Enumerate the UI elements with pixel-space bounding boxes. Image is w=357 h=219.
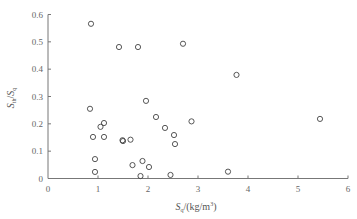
data-point-circle-icon <box>180 41 185 46</box>
data-point-circle-icon <box>143 98 148 103</box>
data-point-circle-icon <box>189 119 194 124</box>
data-point-circle-icon <box>162 125 167 130</box>
y-tick-label: 0.5 <box>32 37 44 47</box>
y-tick-label: 0.6 <box>32 10 44 20</box>
x-tick-label: 6 <box>346 184 351 194</box>
data-point-circle-icon <box>146 164 151 169</box>
data-point-circle-icon <box>92 156 97 161</box>
data-point-circle-icon <box>130 163 135 168</box>
scatter-chart: 00.10.20.30.40.50.6 0123456 Sq/(kg/m3) S… <box>0 0 357 219</box>
y-tick-label: 0.1 <box>32 146 43 156</box>
y-tick-label: 0.2 <box>32 119 43 129</box>
y-axis-title: Sth/Sq <box>5 88 17 108</box>
x-tick-label: 0 <box>46 184 51 194</box>
data-point-circle-icon <box>87 106 92 111</box>
data-point-circle-icon <box>171 132 176 137</box>
data-points <box>87 21 322 178</box>
data-point-circle-icon <box>317 116 322 121</box>
y-tick-label: 0.4 <box>32 64 44 74</box>
data-point-circle-icon <box>140 158 145 163</box>
y-tick-label: 0.3 <box>32 92 44 102</box>
y-tick-label: 0 <box>39 174 44 184</box>
data-point-circle-icon <box>172 141 177 146</box>
data-point-circle-icon <box>153 114 158 119</box>
data-point-circle-icon <box>135 44 140 49</box>
data-point-circle-icon <box>168 172 173 177</box>
x-tick-label: 4 <box>246 184 251 194</box>
data-point-circle-icon <box>101 134 106 139</box>
data-point-circle-icon <box>90 134 95 139</box>
data-point-circle-icon <box>116 44 121 49</box>
y-axis: 00.10.20.30.40.50.6 <box>32 10 51 184</box>
data-point-circle-icon <box>98 124 103 129</box>
data-point-circle-icon <box>234 72 239 77</box>
x-tick-label: 3 <box>196 184 201 194</box>
data-point-circle-icon <box>88 21 93 26</box>
data-point-circle-icon <box>138 173 143 178</box>
data-point-circle-icon <box>92 169 97 174</box>
x-tick-label: 1 <box>96 184 101 194</box>
data-point-circle-icon <box>225 169 230 174</box>
x-axis-title: Sq/(kg/m3) <box>175 201 216 213</box>
x-tick-label: 2 <box>146 184 151 194</box>
data-point-circle-icon <box>128 137 133 142</box>
x-axis: 0123456 <box>46 176 351 194</box>
x-tick-label: 5 <box>296 184 301 194</box>
